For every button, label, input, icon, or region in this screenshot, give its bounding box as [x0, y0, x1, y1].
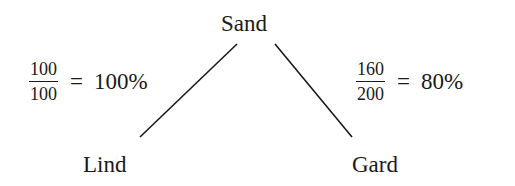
- edge-sand-gard: [275, 44, 352, 137]
- percent-right: 80%: [421, 70, 463, 93]
- fraction-right: 160 200: [356, 60, 385, 103]
- node-gard: Gard: [352, 153, 398, 176]
- equals-sign-right: =: [397, 70, 410, 93]
- fraction-right-numerator: 160: [356, 60, 385, 81]
- fraction-left: 100 100: [29, 60, 58, 103]
- percent-left: 100%: [94, 70, 148, 93]
- fraction-left-numerator: 100: [29, 60, 58, 81]
- ratio-left: 100 100 = 100%: [29, 60, 148, 103]
- node-lind: Lind: [83, 153, 126, 176]
- edge-sand-lind: [140, 44, 237, 137]
- node-sand: Sand: [221, 12, 267, 35]
- equals-sign-left: =: [70, 70, 83, 93]
- fraction-right-denominator: 200: [356, 82, 385, 103]
- fraction-left-denominator: 100: [29, 82, 58, 103]
- ratio-right: 160 200 = 80%: [356, 60, 463, 103]
